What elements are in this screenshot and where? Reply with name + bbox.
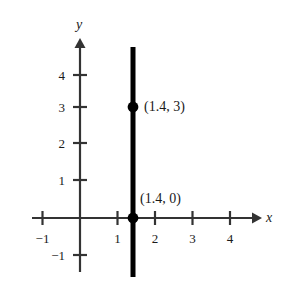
y-tick-label--1: −1 xyxy=(41,249,65,262)
data-point-1point4-3 xyxy=(128,102,139,113)
y-axis-arrow-icon xyxy=(75,38,86,48)
data-point-1point4-0 xyxy=(128,213,139,224)
x-tick-label-3: 3 xyxy=(189,232,196,245)
y-tick-label-4: 4 xyxy=(47,69,65,82)
x-axis-arrow-icon xyxy=(252,213,262,224)
annotation-point-1point4-0: (1.4, 0) xyxy=(140,192,181,206)
x-tick-label-2: 2 xyxy=(152,232,159,245)
x-tick-label-4: 4 xyxy=(227,232,234,245)
annotation-point-1point4-3: (1.4, 3) xyxy=(144,100,185,114)
x-tick-label--1: −1 xyxy=(36,232,50,245)
x-axis-label: x xyxy=(266,211,272,225)
y-axis-label: y xyxy=(76,18,82,32)
y-tick-label-1: 1 xyxy=(47,174,65,187)
x-tick-label-1: 1 xyxy=(114,232,121,245)
graph-figure: y x −1 1 2 3 4 4 3 2 1 −1 (1.4, 3) (1.4,… xyxy=(0,0,285,289)
y-tick-label-2: 2 xyxy=(47,137,65,150)
y-tick-label-3: 3 xyxy=(47,101,65,114)
